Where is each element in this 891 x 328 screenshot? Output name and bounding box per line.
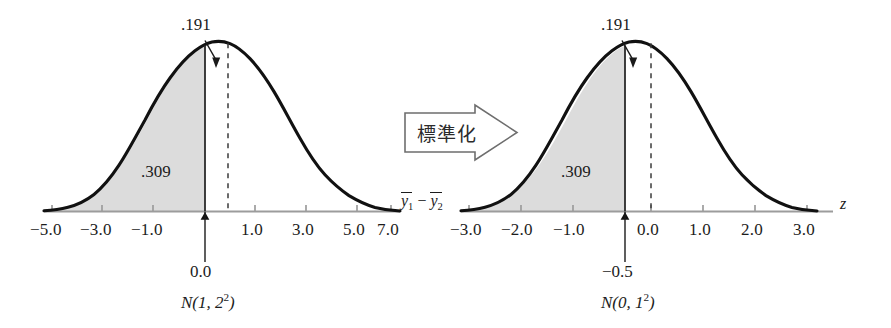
right-axis-variable-label: z xyxy=(840,196,846,212)
left-tick-label-6: 7.0 xyxy=(377,221,399,238)
y1-bar-symbol: y1 xyxy=(401,193,413,213)
left-curve-graphic xyxy=(0,0,450,328)
left-distribution-caption: N(1, 22) xyxy=(181,292,235,311)
left-distribution-panel: .191 .309 y1 − y2 −5.0 −3.0 −1.0 1.0 3.0… xyxy=(0,0,450,328)
standardization-figure: .191 .309 y1 − y2 −5.0 −3.0 −1.0 1.0 3.0… xyxy=(0,0,891,328)
right-cutpoint-value-label: −0.5 xyxy=(602,263,633,280)
left-cutpoint-value-label: 0.0 xyxy=(190,263,211,280)
left-tick-label-2: −1.0 xyxy=(131,221,163,238)
left-dist-suffix: ) xyxy=(229,293,235,312)
right-tick-label-6: 3.0 xyxy=(793,221,815,238)
right-dist-suffix: ) xyxy=(649,293,655,312)
left-tick-label-5: 5.0 xyxy=(343,221,365,238)
right-distribution-panel: .191 .309 z −3.0 −2.0 −1.0 0.0 1.0 2.0 3… xyxy=(450,0,891,328)
left-tick-label-0: −5.0 xyxy=(30,221,62,238)
right-distribution-caption: N(0, 12) xyxy=(601,292,655,311)
right-shaded-tail-area xyxy=(464,46,625,212)
right-peak-value-label: .191 xyxy=(601,16,631,33)
right-tick-label-3: 0.0 xyxy=(637,221,659,238)
left-normal-curve-path xyxy=(44,41,400,211)
right-area-value-label: .309 xyxy=(561,163,591,180)
left-area-value-label: .309 xyxy=(141,163,171,180)
left-peak-pointer-arrow xyxy=(205,41,220,69)
right-tick-label-5: 2.0 xyxy=(741,221,763,238)
left-tick-label-3: 1.0 xyxy=(241,221,263,238)
right-tick-label-2: −1.0 xyxy=(553,221,585,238)
left-dist-prefix: N(1, 2 xyxy=(181,293,224,312)
right-dist-prefix: N(0, 1 xyxy=(601,293,644,312)
right-tick-label-1: −2.0 xyxy=(501,221,533,238)
left-shaded-tail-area xyxy=(47,46,205,212)
y2-bar-symbol: y2 xyxy=(430,193,442,213)
left-peak-value-label: .191 xyxy=(181,16,211,33)
right-tick-label-4: 1.0 xyxy=(689,221,711,238)
right-tick-label-0: −3.0 xyxy=(450,221,482,238)
left-axis-variable-label: y1 − y2 xyxy=(401,193,443,213)
right-normal-curve-path xyxy=(461,41,817,211)
left-tick-label-1: −3.0 xyxy=(80,221,112,238)
right-curve-graphic xyxy=(450,0,891,328)
left-tick-label-4: 3.0 xyxy=(292,221,314,238)
